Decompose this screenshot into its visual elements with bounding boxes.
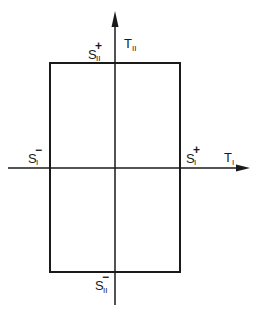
label-s2-minus-subscript: II: [103, 286, 107, 295]
axis-label-t2-symbol: T: [124, 36, 132, 51]
label-s1-plus-subscript: I: [194, 158, 196, 167]
axis-label-t2-subscript: II: [132, 44, 136, 53]
label-s2-minus-superscript: −: [102, 270, 109, 284]
label-s1-minus: S I −: [28, 143, 42, 167]
horizontal-axis-arrow-icon: [236, 165, 250, 172]
axis-label-t1: T I: [224, 150, 234, 167]
label-s1-minus-subscript: I: [36, 158, 38, 167]
axis-label-t2: T II: [124, 36, 136, 53]
label-s1-minus-superscript: −: [35, 143, 42, 157]
label-s1-plus-superscript: +: [193, 143, 200, 157]
label-s2-plus: S II +: [88, 39, 102, 63]
label-s1-plus: S I +: [186, 143, 200, 167]
label-s2-plus-subscript: II: [96, 54, 100, 63]
vertical-axis-arrow-icon: [112, 11, 119, 27]
axis-label-t1-symbol: T: [224, 150, 232, 165]
axis-label-t1-subscript: I: [232, 158, 234, 167]
diagram-canvas: T II T I S II + S I − S I + S II −: [0, 0, 256, 319]
label-s2-minus: S II −: [95, 270, 109, 295]
label-s2-plus-superscript: +: [95, 39, 102, 53]
